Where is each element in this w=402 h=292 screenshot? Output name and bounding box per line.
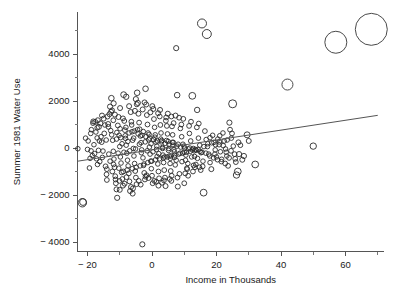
y-tick-label: − 2000 bbox=[40, 189, 69, 200]
data-point bbox=[252, 161, 259, 168]
data-point bbox=[87, 166, 92, 171]
data-point bbox=[189, 119, 194, 124]
data-point bbox=[110, 169, 115, 174]
x-tick-label: 60 bbox=[340, 259, 351, 270]
data-point bbox=[209, 167, 214, 172]
data-point bbox=[202, 30, 211, 39]
data-point bbox=[101, 149, 106, 154]
data-point bbox=[163, 175, 168, 180]
data-point bbox=[134, 90, 140, 96]
data-point bbox=[104, 172, 109, 177]
data-point bbox=[229, 100, 237, 108]
data-point bbox=[109, 133, 114, 138]
axis-labels: − 200204060400020000− 2000− 4000Income i… bbox=[11, 48, 351, 285]
data-point bbox=[111, 118, 116, 123]
data-point bbox=[115, 123, 120, 128]
data-point bbox=[148, 110, 153, 115]
data-point bbox=[111, 162, 116, 167]
plot-canvas: − 200204060400020000− 2000− 4000Income i… bbox=[0, 0, 402, 292]
data-point bbox=[158, 123, 163, 128]
data-point bbox=[325, 31, 347, 53]
data-point bbox=[129, 123, 134, 128]
scatter-plot-figure: − 200204060400020000− 2000− 4000Income i… bbox=[0, 0, 402, 292]
data-point bbox=[86, 139, 91, 144]
x-tick-label: 20 bbox=[211, 259, 222, 270]
data-point bbox=[229, 148, 234, 153]
data-point bbox=[200, 189, 207, 196]
data-point bbox=[168, 169, 173, 174]
data-point bbox=[141, 156, 146, 161]
data-point bbox=[104, 178, 109, 183]
y-tick-label: − 4000 bbox=[40, 236, 69, 247]
x-tick-label: − 20 bbox=[78, 259, 97, 270]
data-point bbox=[117, 187, 122, 192]
data-point bbox=[189, 92, 196, 99]
data-point bbox=[145, 122, 150, 127]
y-tick-label: 2000 bbox=[48, 95, 69, 106]
data-point bbox=[182, 181, 187, 186]
data-point bbox=[310, 143, 316, 149]
data-point bbox=[109, 95, 115, 101]
data-point bbox=[282, 79, 293, 90]
data-point bbox=[161, 160, 166, 165]
data-point bbox=[173, 163, 178, 168]
data-point bbox=[156, 183, 161, 188]
data-point bbox=[175, 184, 180, 189]
data-point bbox=[196, 136, 201, 141]
data-point bbox=[227, 120, 232, 125]
data-point bbox=[125, 158, 130, 163]
data-point bbox=[104, 138, 109, 143]
data-point bbox=[189, 155, 194, 160]
data-point bbox=[134, 102, 139, 107]
data-point bbox=[127, 104, 132, 109]
data-point bbox=[170, 133, 175, 138]
data-point bbox=[140, 107, 145, 112]
data-point bbox=[111, 149, 116, 154]
data-point bbox=[118, 106, 123, 111]
data-point bbox=[174, 46, 179, 51]
data-point bbox=[152, 117, 157, 122]
data-point bbox=[115, 195, 120, 200]
data-point bbox=[140, 242, 145, 247]
data-point bbox=[186, 161, 191, 166]
data-point bbox=[174, 92, 180, 98]
data-point bbox=[202, 129, 207, 134]
data-point bbox=[92, 142, 97, 147]
data-point bbox=[168, 161, 173, 166]
data-point bbox=[156, 169, 161, 174]
data-point bbox=[165, 132, 170, 137]
axes bbox=[73, 12, 384, 256]
data-point bbox=[355, 13, 387, 45]
data-point bbox=[208, 160, 213, 165]
data-point bbox=[127, 131, 132, 136]
data-point bbox=[163, 118, 168, 123]
data-point bbox=[124, 125, 129, 130]
data-point bbox=[194, 107, 199, 112]
y-tick-label: 4000 bbox=[48, 48, 69, 59]
data-point bbox=[152, 125, 157, 130]
data-point bbox=[124, 175, 129, 180]
data-point bbox=[119, 161, 124, 166]
data-point bbox=[246, 138, 251, 143]
data-point bbox=[187, 131, 192, 136]
data-point bbox=[159, 131, 164, 136]
data-point bbox=[123, 128, 128, 133]
data-point bbox=[149, 166, 154, 171]
data-points bbox=[76, 13, 388, 247]
data-point bbox=[132, 154, 137, 159]
data-point bbox=[188, 139, 193, 144]
data-point bbox=[231, 144, 236, 149]
data-point bbox=[80, 199, 87, 206]
data-point bbox=[96, 148, 101, 153]
data-point bbox=[234, 168, 241, 175]
data-point bbox=[179, 134, 184, 139]
y-tick-label: 0 bbox=[64, 142, 69, 153]
data-point bbox=[164, 124, 169, 129]
x-tick-label: 40 bbox=[276, 259, 287, 270]
data-point bbox=[111, 101, 116, 106]
y-axis-title: Summer 1981 Water Use bbox=[11, 78, 22, 185]
data-point bbox=[143, 86, 149, 92]
data-point bbox=[197, 19, 206, 28]
data-point bbox=[162, 168, 167, 173]
data-point bbox=[83, 136, 88, 141]
